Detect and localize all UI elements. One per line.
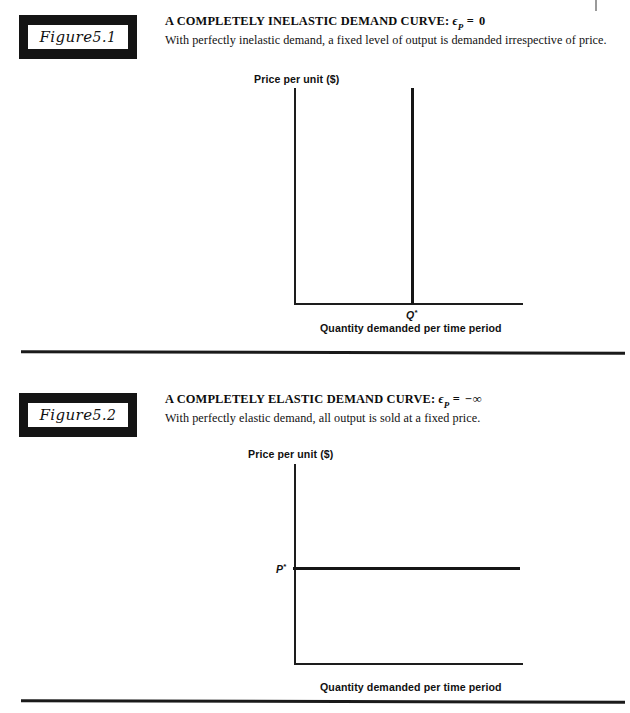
section-divider-top (21, 350, 625, 354)
figure-5-1-block: Figure5.1 A COMPLETELY INELASTIC DEMAND … (0, 0, 630, 350)
figure-5-1-chart: Price per unit ($) Q* Quantity demanded … (0, 0, 630, 340)
figure-5-2-chart: Price per unit ($) P* Quantity demanded … (0, 380, 630, 680)
figure-5-2-x-axis-label: Quantity demanded per time period (320, 681, 502, 693)
figure-5-1-x-axis (294, 303, 523, 305)
figure-5-1-quantity-label: Q* (406, 307, 417, 321)
figure-5-2-y-axis (294, 464, 296, 664)
figure-5-2-price-label: P* (276, 561, 286, 575)
figure-5-1-demand-curve (411, 88, 414, 304)
figure-5-2-price-label-star: * (283, 562, 286, 571)
figure-5-2-x-axis (294, 663, 523, 665)
scanned-textbook-page: Figure5.1 A COMPLETELY INELASTIC DEMAND … (0, 0, 630, 713)
figure-5-1-quantity-label-star: * (414, 308, 417, 317)
figure-5-1-quantity-label-text: Q (406, 309, 414, 321)
figure-5-1-x-axis-label: Quantity demanded per time period (320, 322, 502, 334)
figure-5-2-demand-curve (293, 567, 520, 570)
figure-5-1-y-axis-label: Price per unit ($) (254, 73, 339, 85)
figure-5-2-y-axis-label: Price per unit ($) (248, 448, 333, 460)
figure-5-2-block: Figure5.2 A COMPLETELY ELASTIC DEMAND CU… (0, 380, 630, 690)
figure-5-1-y-axis (294, 88, 296, 304)
section-divider-bottom (21, 699, 625, 703)
figure-5-2-price-label-text: P (276, 563, 283, 575)
